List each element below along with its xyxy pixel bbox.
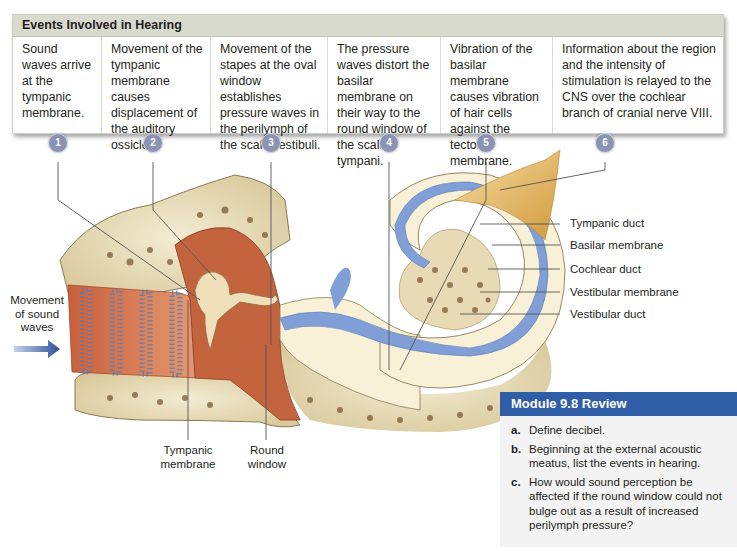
- step-badge-2: 2: [143, 133, 163, 153]
- review-question-b: b. Beginning at the external acoustic me…: [511, 442, 729, 471]
- label-basilar-membrane: Basilar membrane: [570, 239, 663, 253]
- step-badge-6: 6: [595, 133, 615, 153]
- label-movement-of-sound-waves: Movement of sound waves: [4, 294, 70, 335]
- sound-wave-arrow-icon: [14, 340, 60, 358]
- label-cochlear-duct: Cochlear duct: [570, 263, 641, 277]
- review-question-a: a. Define decibel.: [511, 423, 729, 438]
- event-step-3: Movement of the stapes at the oval windo…: [211, 37, 328, 133]
- events-table-title: Events Involved in Hearing: [13, 15, 723, 37]
- step-badge-3: 3: [261, 133, 281, 153]
- event-step-6: Information about the region and the int…: [553, 37, 723, 133]
- label-vestibular-membrane: Vestibular membrane: [570, 286, 679, 300]
- label-round-window: Round window: [242, 444, 292, 471]
- label-tympanic-membrane: Tympanic membrane: [156, 444, 220, 471]
- module-review-box: Module 9.8 Review a. Define decibel. b. …: [500, 392, 737, 547]
- step-badge-4: 4: [379, 133, 399, 153]
- review-title: Module 9.8 Review: [500, 392, 737, 416]
- event-step-4: The pressure waves distort the basilar m…: [328, 37, 441, 133]
- event-step-5: Vibration of the basilar membrane causes…: [441, 37, 553, 133]
- event-step-2: Movement of the tympanic membrane causes…: [102, 37, 211, 133]
- review-question-c: c. How would sound perception be affecte…: [511, 475, 729, 533]
- step-badge-1: 1: [48, 133, 68, 153]
- label-tympanic-duct: Tympanic duct: [570, 217, 644, 231]
- event-step-1: Sound waves arrive at the tympanic membr…: [13, 37, 102, 133]
- label-vestibular-duct: Vestibular duct: [570, 308, 645, 322]
- step-badge-5: 5: [476, 133, 496, 153]
- events-involved-in-hearing-table: Events Involved in Hearing Sound waves a…: [12, 14, 724, 134]
